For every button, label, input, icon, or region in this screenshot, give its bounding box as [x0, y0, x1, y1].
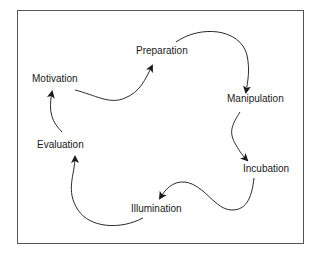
stage-manipulation: Manipulation	[227, 93, 284, 105]
stage-incubation: Incubation	[243, 163, 289, 175]
arrow-evaluation-to-motivation	[50, 92, 62, 132]
stage-illumination: Illumination	[131, 203, 182, 215]
stage-preparation: Preparation	[136, 45, 188, 57]
stage-evaluation: Evaluation	[37, 139, 84, 151]
arrow-illumination-to-evaluation	[71, 157, 143, 226]
stage-motivation: Motivation	[32, 73, 78, 85]
cycle-arrows	[0, 0, 319, 258]
arrow-motivation-to-preparation	[75, 66, 152, 100]
arrow-manipulation-to-incubation	[232, 112, 247, 160]
arrow-preparation-to-manipulation	[176, 31, 249, 92]
